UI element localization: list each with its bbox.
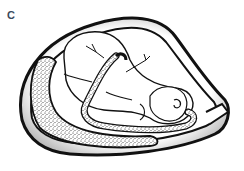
fetus-in-utero-illustration	[0, 0, 244, 171]
